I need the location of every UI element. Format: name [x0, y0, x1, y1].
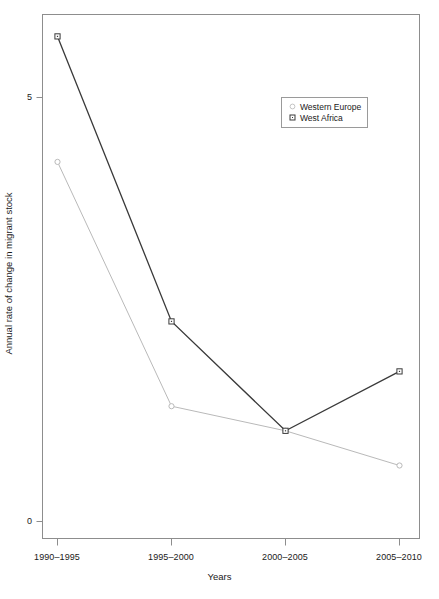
- series-line: [58, 36, 400, 430]
- series-west-africa: [55, 34, 402, 434]
- circle-marker-icon: [286, 103, 298, 110]
- legend-item-western-europe: Western Europe: [286, 101, 361, 112]
- series-line: [58, 162, 400, 466]
- y-tick-label-0: 0: [12, 516, 32, 526]
- circle-marker: [169, 404, 174, 409]
- circle-marker: [55, 159, 60, 164]
- x-axis-ticks: [58, 539, 400, 546]
- y-axis-title: Annual rate of change in migrant stock: [3, 154, 14, 394]
- legend-label-west-africa: West Africa: [298, 113, 343, 123]
- x-tick-label-1995-2000: 1995–2000: [148, 552, 194, 562]
- plot-border: [43, 15, 420, 539]
- y-tick-label-5: 5: [12, 92, 32, 102]
- x-tick-label-2005-2010: 2005–2010: [376, 552, 422, 562]
- line-chart-plot: [0, 0, 439, 599]
- legend-item-west-africa: West Africa: [286, 112, 361, 123]
- square-marker-center: [399, 371, 400, 372]
- legend-label-western-europe: Western Europe: [298, 102, 361, 112]
- square-marker-center: [171, 321, 172, 322]
- square-marker-icon: [286, 114, 298, 121]
- square-marker-center: [57, 36, 58, 37]
- x-tick-label-2000-2005: 2000–2005: [262, 552, 308, 562]
- y-axis-ticks: [37, 98, 43, 522]
- circle-marker: [397, 463, 402, 468]
- chart-legend: Western Europe West Africa: [281, 97, 368, 128]
- square-marker-center: [285, 430, 286, 431]
- x-axis-title: Years: [0, 571, 439, 582]
- series-western-europe: [55, 159, 402, 468]
- x-tick-label-1990-1995: 1990–1995: [34, 552, 80, 562]
- chart-container: 5 0 1990–1995 1995–2000 2000–2005 2005–2…: [0, 0, 439, 599]
